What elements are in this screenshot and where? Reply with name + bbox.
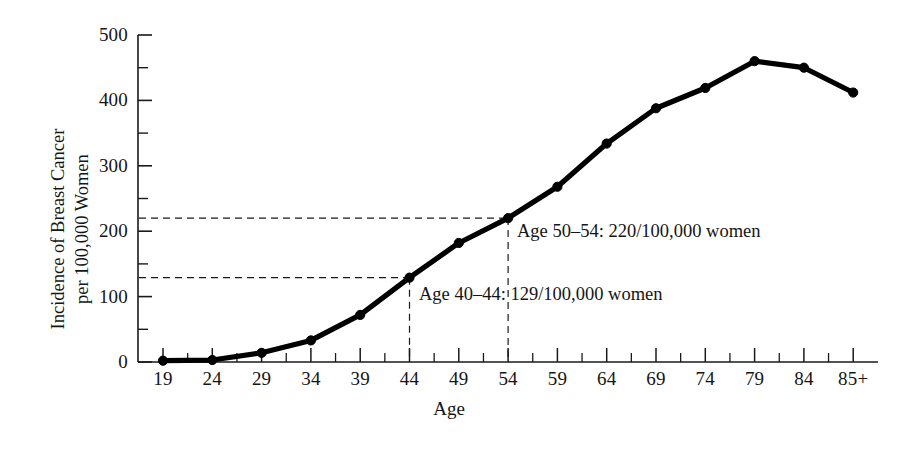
axis-lines [138, 35, 878, 362]
y-axis-title-line-2: per 100,000 Women [70, 74, 94, 384]
x-tick-label: 74 [696, 368, 715, 390]
x-tick-label: 69 [646, 368, 665, 390]
chart-plot-area [0, 0, 898, 463]
data-point-marker [701, 83, 710, 92]
y-tick-label: 500 [60, 24, 128, 46]
data-point-marker [257, 348, 266, 357]
x-tick-label: 44 [400, 368, 419, 390]
x-tick-label: 54 [498, 368, 517, 390]
data-point-marker [553, 182, 562, 191]
data-point-marker [208, 355, 217, 364]
x-axis-title: Age [0, 398, 898, 420]
x-tick-label: 59 [548, 368, 567, 390]
x-tick-label: 64 [597, 368, 616, 390]
y-axis-title: Incidence of Breast Cancer per 100,000 W… [46, 74, 94, 384]
x-tick-label: 39 [350, 368, 369, 390]
x-tick-label: 49 [449, 368, 468, 390]
data-point-marker [306, 336, 315, 345]
x-tick-label: 29 [252, 368, 271, 390]
data-point-marker [750, 57, 759, 66]
data-point-marker [356, 310, 365, 319]
x-tick-label: 79 [745, 368, 764, 390]
x-tick-label: 84 [794, 368, 813, 390]
data-point-marker [849, 88, 858, 97]
data-point-marker [158, 356, 167, 365]
y-axis-title-line-1: Incidence of Breast Cancer [46, 74, 70, 384]
annotation-label-age-50-54: Age 50–54: 220/100,000 women [517, 221, 761, 242]
y-axis-ticks [138, 35, 152, 362]
x-tick-label: 34 [301, 368, 320, 390]
x-tick-label: 24 [203, 368, 222, 390]
data-point-marker [504, 214, 513, 223]
x-tick-label: 19 [153, 368, 172, 390]
data-point-marker [651, 104, 660, 113]
annotation-label-age-40-44: Age 40–44: 129/100,000 women [419, 284, 663, 305]
data-point-marker [602, 139, 611, 148]
breast-cancer-incidence-chart: 0100200300400500 19242934394449545964697… [0, 0, 898, 463]
data-point-marker [799, 63, 808, 72]
data-point-marker [454, 238, 463, 247]
data-point-marker [405, 273, 414, 282]
x-tick-label: 85+ [838, 368, 868, 390]
